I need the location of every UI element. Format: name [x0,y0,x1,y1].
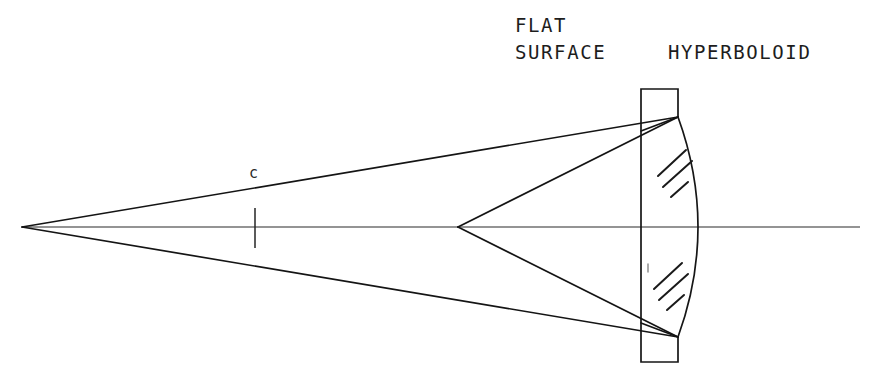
lower-hatch-group [654,263,688,310]
upper-inner-ray [458,117,678,227]
optics-diagram-canvas: FLAT SURFACE HYPERBOLOID c [0,0,875,382]
upper-hatch-group [658,150,692,197]
hyperboloid-label: HYPERBOLOID [668,41,811,63]
hatch-stroke [671,182,688,197]
hatch-stroke [658,150,686,176]
hatch-stroke [654,263,682,289]
plano-hyperbolic-lens-outline [641,89,698,362]
lower-return-ray [641,323,678,337]
upper-return-ray [641,117,678,131]
lens-ray-diagram: FLAT SURFACE HYPERBOLOID c [0,0,875,382]
upper-outer-ray [22,117,678,227]
hatch-stroke [667,295,684,310]
center-point-label: c [249,164,258,182]
surface-label: SURFACE [515,41,606,63]
flat-label: FLAT [515,14,567,36]
lower-inner-ray [458,227,678,337]
lower-outer-ray [22,227,678,337]
